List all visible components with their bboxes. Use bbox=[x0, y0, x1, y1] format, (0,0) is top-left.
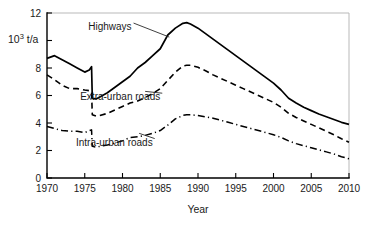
y-tick-label: 12 bbox=[30, 8, 42, 19]
series-label-extra-urban: Extra-urban roads bbox=[80, 91, 160, 102]
series-label-intra-urban: Intra-urban roads bbox=[76, 137, 153, 148]
x-tick-label: 1995 bbox=[225, 183, 248, 194]
x-tick-label: 1985 bbox=[149, 183, 172, 194]
x-tick-label: 1980 bbox=[111, 183, 134, 194]
x-tick-label: 1970 bbox=[36, 183, 59, 194]
y-tick-label: 2 bbox=[35, 145, 41, 156]
series-label-highways: Highways bbox=[88, 21, 131, 32]
x-axis-title: Year bbox=[187, 203, 209, 215]
chart-container: 0246812 19701975198019851990199520002005… bbox=[0, 0, 367, 230]
x-axis-tick-labels: 197019751980198519901995200020052010 bbox=[36, 183, 361, 194]
y-axis-unit-label: 103 t/a bbox=[8, 32, 39, 45]
x-tick-label: 2005 bbox=[300, 183, 323, 194]
x-tick-label: 2010 bbox=[338, 183, 361, 194]
x-tick-label: 1975 bbox=[74, 183, 97, 194]
y-axis-unit-mantissa: 10 bbox=[8, 33, 20, 45]
y-tick-label: 8 bbox=[35, 63, 41, 74]
line-chart: 0246812 19701975198019851990199520002005… bbox=[0, 0, 367, 230]
y-axis-unit-rest: t/a bbox=[24, 33, 39, 45]
x-tick-label: 1990 bbox=[187, 183, 210, 194]
y-tick-label: 0 bbox=[35, 173, 41, 184]
y-tick-label: 6 bbox=[35, 90, 41, 101]
x-tick-label: 2000 bbox=[262, 183, 285, 194]
y-tick-label: 4 bbox=[35, 118, 41, 129]
